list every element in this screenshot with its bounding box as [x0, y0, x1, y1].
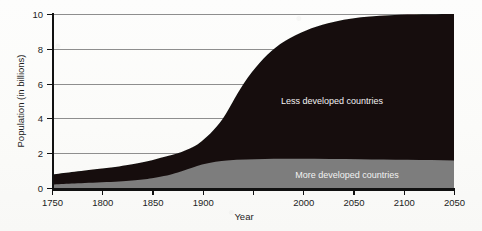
label-less-developed: Less developed countries: [281, 96, 384, 106]
x-tick-label-2150: 2050: [444, 197, 465, 208]
chart-svg: Less developed countries More developed …: [0, 0, 482, 231]
x-tick-label-1800: 1800: [92, 197, 113, 208]
x-tick-label-2050: 2050: [343, 197, 364, 208]
x-tick-label-2100: 2100: [394, 197, 415, 208]
x-tick-label-1900: 1900: [193, 197, 214, 208]
area-bands: [52, 14, 454, 189]
x-tick-label-1850: 1850: [142, 197, 163, 208]
x-tick-label-2000: 2000: [293, 197, 314, 208]
y-tick-label-8: 8: [38, 44, 43, 55]
x-axis-tick-labels: 1750 1800 1850 1900 2000 2050 2100 2050: [42, 197, 465, 208]
y-axis-tick-labels: 10 8 6 4 2 0: [32, 9, 43, 194]
label-more-developed: More developed countries: [295, 170, 399, 180]
y-tick-label-0: 0: [38, 183, 43, 194]
y-axis-title: Population (in billions): [15, 55, 26, 148]
y-tick-label-2: 2: [38, 148, 43, 159]
population-area-chart: Less developed countries More developed …: [0, 0, 482, 231]
x-axis-title: Year: [234, 211, 253, 222]
x-tick-label-1750: 1750: [42, 197, 63, 208]
y-tick-label-10: 10: [32, 9, 43, 20]
y-tick-label-6: 6: [38, 79, 43, 90]
y-tick-label-4: 4: [38, 113, 43, 124]
